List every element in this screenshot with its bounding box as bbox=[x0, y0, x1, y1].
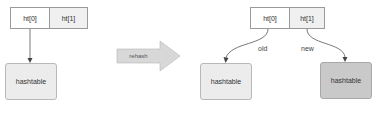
old-label: old bbox=[258, 45, 267, 52]
before-hashtable[interactable]: hashtable bbox=[5, 63, 57, 100]
before-slot-ht1[interactable]: ht[1] bbox=[49, 7, 88, 29]
new-label: new bbox=[301, 45, 314, 52]
arrow-old bbox=[226, 29, 268, 58]
after-slot-ht0[interactable]: ht[0] bbox=[250, 7, 290, 29]
after-new-hashtable[interactable]: hashtable bbox=[320, 62, 372, 99]
before-slot-ht0[interactable]: ht[0] bbox=[10, 7, 50, 29]
rehash-label: rehash bbox=[117, 49, 160, 63]
after-slot-ht1[interactable]: ht[1] bbox=[289, 7, 325, 29]
arrow-new bbox=[307, 29, 345, 57]
after-old-hashtable[interactable]: hashtable bbox=[200, 63, 252, 100]
